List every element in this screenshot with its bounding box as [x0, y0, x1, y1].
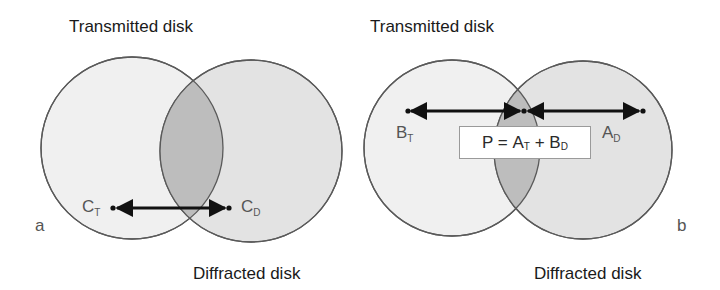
equation-box: P = AT + BD [459, 126, 591, 159]
ad-label: AD [602, 123, 621, 143]
diffracted-disk-label-b: Diffracted disk [534, 264, 641, 284]
ct-label: CT [82, 197, 100, 217]
cd-dot [226, 205, 231, 210]
transmitted-disk-label-b: Transmitted disk [370, 17, 494, 37]
panel-label-a: a [35, 216, 44, 236]
diffracted-disk-label-a: Diffracted disk [193, 264, 300, 284]
bt-dot [405, 108, 410, 113]
transmitted-disk-label-a: Transmitted disk [69, 17, 193, 37]
overlapping-disks-diagram [0, 0, 720, 290]
bt-label: BT [396, 123, 413, 143]
panel-label-b: b [677, 216, 686, 236]
ct-dot [110, 205, 115, 210]
cd-label: CD [241, 197, 261, 217]
p-dot [521, 108, 526, 113]
ad-dot [640, 108, 645, 113]
